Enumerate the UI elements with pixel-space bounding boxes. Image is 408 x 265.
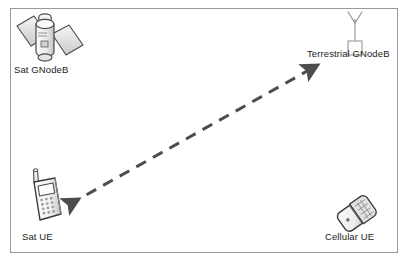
diagram-canvas: Sat GNodeB Terrestrial GNodeB xyxy=(0,0,408,265)
label-cellular-ue: Cellular UE xyxy=(325,231,374,242)
node-sat-gnodeb[interactable] xyxy=(14,10,86,66)
label-terrestrial-gnodeb: Terrestrial GNodeB xyxy=(307,48,390,59)
node-sat-ue[interactable] xyxy=(24,168,68,228)
label-sat-ue: Sat UE xyxy=(22,231,53,242)
node-cellular-ue[interactable] xyxy=(328,190,380,234)
flip-phone-icon xyxy=(328,190,380,234)
candybar-phone-icon xyxy=(24,168,68,228)
connection-line xyxy=(70,70,309,204)
label-sat-gnodeb: Sat GNodeB xyxy=(14,64,68,75)
satellite-icon xyxy=(14,10,86,66)
